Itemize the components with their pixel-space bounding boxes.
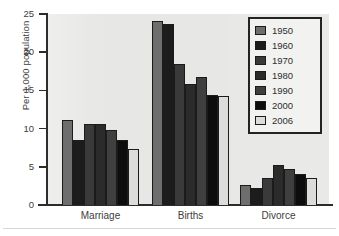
y-tick-mark: [39, 90, 47, 92]
bar: [306, 178, 317, 206]
legend-item: 1960: [255, 38, 315, 53]
legend-item: 2006: [255, 113, 315, 128]
legend-item: 1950: [255, 23, 315, 38]
y-tick-label: 15: [6, 85, 34, 95]
y-tick-label: 10: [6, 124, 34, 134]
legend-label: 2006: [272, 116, 293, 126]
legend-swatch-icon: [255, 41, 266, 50]
legend-swatch-icon: [255, 86, 266, 95]
bar: [196, 77, 207, 205]
bar: [174, 64, 185, 205]
legend-item: 1980: [255, 68, 315, 83]
bar: [163, 24, 174, 205]
bar-group: [62, 14, 139, 205]
legend-swatch-icon: [255, 101, 266, 110]
legend-swatch-icon: [255, 71, 266, 80]
legend-swatch-icon: [255, 116, 266, 125]
legend-swatch-icon: [255, 26, 266, 35]
legend: 1950196019701980199020002006: [248, 17, 322, 134]
bar: [185, 84, 196, 205]
y-tick-mark: [39, 13, 47, 15]
bar: [73, 140, 84, 205]
legend-label: 1990: [272, 86, 293, 96]
bar: [295, 174, 306, 205]
y-tick-label: 20: [6, 47, 34, 57]
legend-label: 1950: [272, 26, 293, 36]
legend-label: 2000: [272, 101, 293, 111]
bar: [284, 169, 295, 205]
bar: [152, 21, 163, 205]
bar-chart-figure: Per 1,000 population 0510152025 Marriage…: [0, 0, 339, 236]
y-tick-mark: [39, 166, 47, 168]
bar: [262, 178, 273, 205]
bar: [251, 188, 262, 205]
y-tick-mark: [39, 51, 47, 53]
bar: [84, 124, 95, 205]
bottom-divider: [3, 228, 336, 229]
y-tick-mark: [39, 204, 47, 206]
legend-label: 1960: [272, 41, 293, 51]
legend-label: 1970: [272, 56, 293, 66]
legend-item: 1970: [255, 53, 315, 68]
bar: [218, 96, 229, 205]
bar: [273, 165, 284, 205]
legend-item: 2000: [255, 98, 315, 113]
legend-item: 1990: [255, 83, 315, 98]
bar-group: [152, 14, 229, 205]
bar: [240, 185, 251, 205]
bar: [207, 95, 218, 205]
y-tick-label: 5: [6, 162, 34, 172]
y-tick-label: 0: [6, 200, 34, 210]
y-tick-label: 25: [6, 9, 34, 19]
bar: [62, 120, 73, 205]
bar: [106, 130, 117, 205]
legend-label: 1980: [272, 71, 293, 81]
y-axis-title: Per 1,000 population: [20, 0, 31, 141]
bar: [95, 124, 106, 205]
legend-swatch-icon: [255, 56, 266, 65]
bar: [117, 140, 128, 205]
y-tick-mark: [39, 128, 47, 130]
x-axis-category-label: Divorce: [220, 210, 337, 221]
y-axis-line: [46, 13, 48, 206]
bar: [128, 149, 139, 205]
